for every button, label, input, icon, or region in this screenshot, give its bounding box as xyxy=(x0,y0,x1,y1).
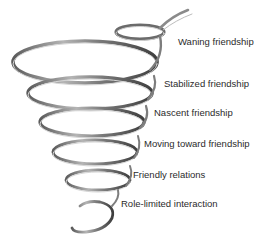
loop-5 xyxy=(66,166,131,192)
label-role-limited-interaction: Role-limited interaction xyxy=(121,198,218,209)
label-moving-toward-friendship: Moving toward friendship xyxy=(144,138,250,149)
label-nascent-friendship: Nascent friendship xyxy=(154,107,233,118)
label-waning-friendship: Waning friendship xyxy=(178,36,254,47)
label-stabilized-friendship: Stabilized friendship xyxy=(164,78,249,89)
friendship-spiral-diagram: Waning friendship Stabilized friendship … xyxy=(0,0,274,239)
loop-4 xyxy=(53,136,139,166)
label-friendly-relations: Friendly relations xyxy=(133,169,205,180)
loop-bottom-tail xyxy=(72,190,118,232)
